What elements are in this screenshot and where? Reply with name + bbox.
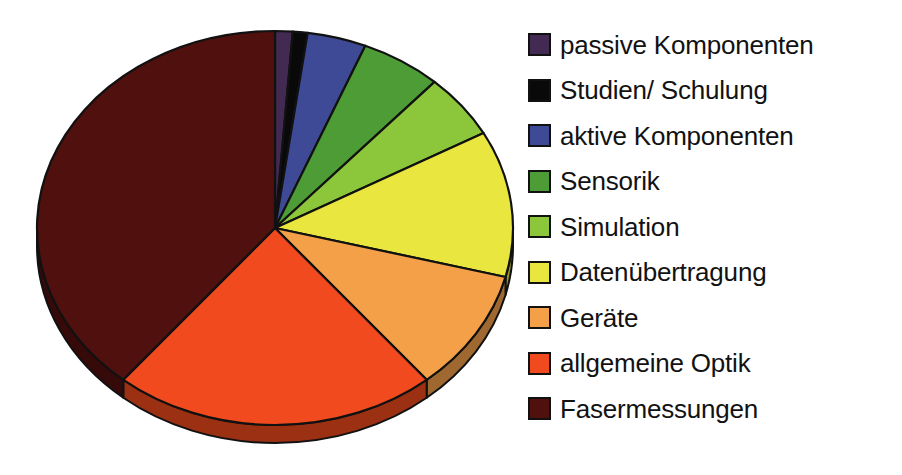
legend-item-allgemeine-optik[interactable]: allgemeine Optik (528, 341, 902, 387)
legend-label-aktive-komponenten: aktive Komponenten (560, 122, 793, 150)
legend-swatch-fasermessungen (528, 397, 551, 420)
legend-label-geraete: Geräte (560, 304, 638, 332)
legend-swatch-sensorik (528, 170, 551, 193)
legend-swatch-allgemeine-optik (528, 352, 551, 375)
chart-legend: passive KomponentenStudien/ Schulungakti… (528, 22, 902, 432)
legend-label-sensorik: Sensorik (560, 167, 660, 195)
legend-label-passive-komponenten: passive Komponenten (560, 31, 813, 59)
legend-label-datenuebertragung: Datenübertragung (560, 258, 766, 286)
legend-swatch-datenuebertragung (528, 261, 551, 284)
legend-label-fasermessungen: Fasermessungen (560, 395, 758, 423)
legend-item-geraete[interactable]: Geräte (528, 295, 902, 341)
legend-label-studien-schulung: Studien/ Schulung (560, 76, 768, 104)
legend-swatch-passive-komponenten (528, 33, 551, 56)
legend-label-allgemeine-optik: allgemeine Optik (560, 349, 750, 377)
pie-chart-plot-area (0, 0, 530, 475)
legend-item-aktive-komponenten[interactable]: aktive Komponenten (528, 113, 902, 159)
legend-label-simulation: Simulation (560, 213, 679, 241)
legend-swatch-simulation (528, 215, 551, 238)
pie-chart-figure: passive KomponentenStudien/ Schulungakti… (0, 0, 902, 475)
legend-item-passive-komponenten[interactable]: passive Komponenten (528, 22, 902, 68)
legend-item-datenuebertragung[interactable]: Datenübertragung (528, 250, 902, 296)
pie-chart-svg (0, 0, 530, 475)
legend-swatch-geraete (528, 306, 551, 329)
legend-item-fasermessungen[interactable]: Fasermessungen (528, 386, 902, 432)
legend-item-studien-schulung[interactable]: Studien/ Schulung (528, 68, 902, 114)
legend-swatch-aktive-komponenten (528, 124, 551, 147)
legend-item-simulation[interactable]: Simulation (528, 204, 902, 250)
legend-item-sensorik[interactable]: Sensorik (528, 159, 902, 205)
legend-swatch-studien-schulung (528, 79, 551, 102)
